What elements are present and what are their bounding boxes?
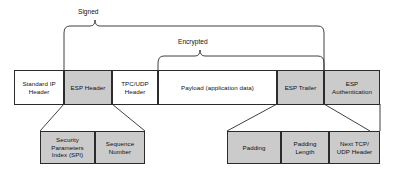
signed-label: Signed [78, 8, 99, 16]
signed-brace [64, 20, 324, 33]
packet-field-esp-header: ESP Header [64, 70, 112, 105]
packet-field-payload: Payload (application data) [158, 70, 277, 105]
packet-field-tpc-udp-header: TPC/UDP Header [112, 70, 158, 105]
encrypted-brace [158, 50, 324, 63]
esp-auth-leader [324, 104, 370, 131]
esp-header-leader-left [40, 104, 64, 131]
esp-detail-sequence-number: Sequence Number [95, 131, 145, 164]
esp-header-leader-right [112, 104, 145, 131]
esp-detail-padding: Padding [227, 131, 281, 164]
packet-field-esp-authentication: ESP Authentication [324, 70, 380, 105]
packet-field-standard-ip-header: Standard IP Header [14, 70, 64, 105]
esp-detail-spi: Security Parameters Index (SPI) [40, 131, 95, 164]
esp-trailer-leader-left [227, 104, 277, 131]
esp-detail-padding-length: Padding Length [281, 131, 329, 164]
packet-field-esp-trailer: ESP Trailer [277, 70, 324, 105]
encrypted-label: Encrypted [178, 38, 208, 46]
esp-detail-next-header: Next TCP/ UDP Header [329, 131, 380, 164]
esp-packet-diagram: Signed Encrypted Standard IP Header ESP … [0, 0, 393, 174]
